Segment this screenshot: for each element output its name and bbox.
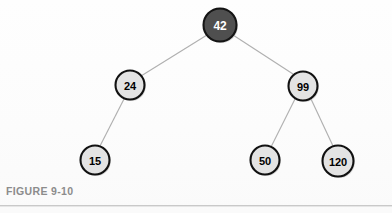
tree-diagram-area: 4224991550120 [0,0,392,182]
tree-node-label-99: 99 [297,81,309,93]
tree-nodes-layer: 4224991550120 [81,9,355,179]
tree-node-42: 42 [204,9,238,44]
tree-edge-99-50 [271,99,295,147]
tree-edge-42-99 [233,35,293,74]
binary-search-tree-svg: 4224991550120 [0,0,392,182]
tree-node-label-120: 120 [329,156,347,168]
tree-edge-99-120 [311,99,333,146]
tree-node-label-42: 42 [214,19,227,33]
tree-node-15: 15 [81,146,111,177]
tree-node-50: 50 [251,146,281,177]
tree-edge-42-24 [141,35,207,76]
figure-caption-text: FIGURE 9-10 [6,185,73,197]
tree-node-99: 99 [289,72,319,103]
tree-node-24: 24 [116,71,146,102]
tree-node-label-24: 24 [124,80,137,92]
figure-caption-block: FIGURE 9-10 [0,182,392,213]
tree-node-label-50: 50 [259,155,271,167]
tree-node-120: 120 [323,146,355,179]
figure-page: 4224991550120 FIGURE 9-10 [0,0,392,213]
caption-divider-rule-shadow [0,206,392,207]
tree-node-label-15: 15 [89,155,101,167]
tree-edge-24-15 [100,99,124,146]
